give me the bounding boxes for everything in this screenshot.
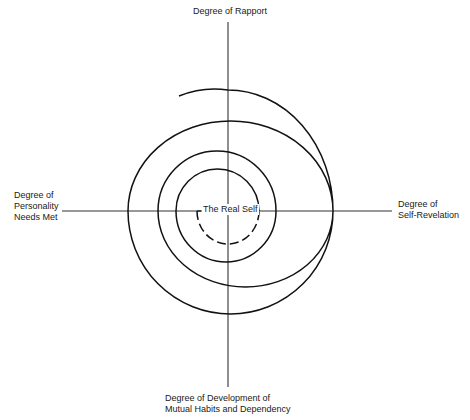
axis-label-right-line: Self-Revelation [398,210,459,221]
axis-label-right-line: Degree of [398,199,459,210]
axis-label-bottom-line: Mutual Habits and Dependency [165,404,291,415]
axis-label-left: Degree of Personality Needs Met [14,190,59,223]
axis-label-left-line: Personality [14,201,59,212]
axis-label-right: Degree of Self-Revelation [398,199,459,221]
axis-label-bottom: Degree of Development of Mutual Habits a… [165,393,291,415]
axis-label-left-line: Degree of [14,190,59,201]
axis-label-top: Degree of Rapport [193,6,267,17]
center-label: The Real Self [202,204,259,215]
axis-label-top-line: Degree of Rapport [193,6,267,17]
axis-label-bottom-line: Degree of Development of [165,393,291,404]
axis-label-left-line: Needs Met [14,212,59,223]
spiral-solid [128,89,333,314]
